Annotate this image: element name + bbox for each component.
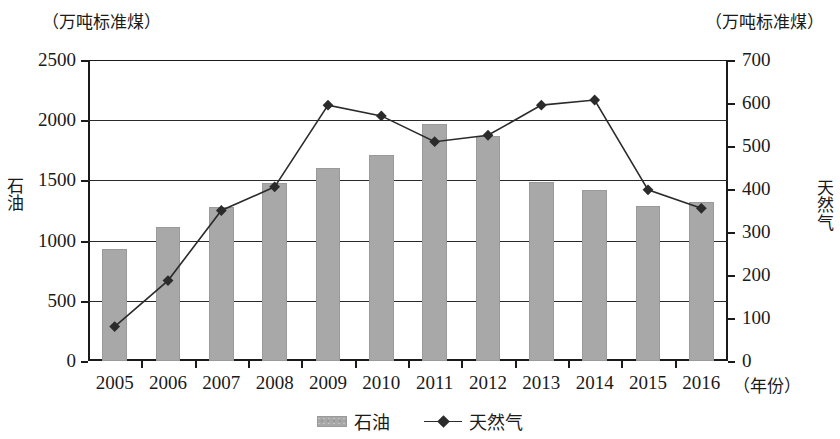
x-axis-title: （年份） <box>733 372 801 397</box>
right-axis-tick <box>728 361 735 363</box>
x-axis-tick <box>461 361 463 368</box>
right-axis-tick <box>728 275 735 277</box>
right-axis-tick <box>728 146 735 148</box>
right-axis-tick-label: 200 <box>742 264 771 286</box>
right-axis-tick <box>728 60 735 62</box>
legend-item-oil[interactable]: 石油 <box>317 408 390 434</box>
right-axis-tick-label: 300 <box>742 221 771 243</box>
x-axis-label-2009: 2009 <box>309 372 347 394</box>
right-axis-tick <box>728 318 735 320</box>
left-axis-tick <box>81 120 88 122</box>
left-axis-tick-label: 0 <box>67 350 77 372</box>
x-axis-tick <box>568 361 570 368</box>
x-axis-tick <box>355 361 357 368</box>
diamond-marker-icon <box>437 415 450 428</box>
x-axis-label-2012: 2012 <box>469 372 507 394</box>
data-point-2012: 天然气 2012: 525 <box>483 130 494 141</box>
left-axis-tick-label: 1500 <box>38 169 76 191</box>
right-axis-tick <box>728 103 735 105</box>
x-axis-tick <box>195 361 197 368</box>
right-axis-tick <box>728 189 735 191</box>
legend-label-oil: 石油 <box>354 408 390 434</box>
x-axis-label-2011: 2011 <box>416 372 453 394</box>
x-axis-tick <box>621 361 623 368</box>
data-point-2015: 天然气 2015: 398 <box>643 184 654 195</box>
x-axis-label-2013: 2013 <box>522 372 560 394</box>
x-axis-tick <box>301 361 303 368</box>
data-point-2013: 天然气 2013: 595 <box>536 100 547 111</box>
left-axis-tick <box>81 301 88 303</box>
x-axis-label-2006: 2006 <box>149 372 187 394</box>
left-axis-tick <box>81 241 88 243</box>
chart-legend: 石油 天然气 <box>0 408 840 434</box>
data-point-2011: 天然气 2011: 510 <box>429 136 440 147</box>
legend-label-natural-gas: 天然气 <box>469 408 523 434</box>
right-axis-unit-label: （万吨标准煤） <box>705 8 824 33</box>
line-series-group: 天然气 2005: 80天然气 2006: 187天然气 2007: 350天然… <box>88 60 728 361</box>
x-axis-label-2016: 2016 <box>682 372 720 394</box>
data-point-2010: 天然气 2010: 570 <box>376 111 387 122</box>
right-axis-tick-label: 600 <box>742 92 771 114</box>
x-axis-label-2008: 2008 <box>256 372 294 394</box>
left-axis-tick-label: 500 <box>48 290 77 312</box>
right-axis-tick-label: 0 <box>742 350 752 372</box>
data-point-2009: 天然气 2009: 595 <box>323 100 334 111</box>
data-point-2014: 天然气 2014: 607 <box>589 95 600 106</box>
left-axis-tick <box>81 180 88 182</box>
data-point-2008: 天然气 2008: 405 <box>269 181 280 192</box>
x-axis-label-2014: 2014 <box>576 372 614 394</box>
bar-swatch-icon <box>317 416 347 427</box>
left-axis-tick-label: 2000 <box>38 109 76 131</box>
x-axis-tick <box>408 361 410 368</box>
line-path-natural-gas <box>115 100 702 327</box>
plot-area: 05001000150020002500 0100200300400500600… <box>88 60 728 361</box>
x-axis-tick <box>675 361 677 368</box>
left-axis-unit-label: （万吨标准煤） <box>42 8 161 33</box>
x-axis-tick <box>248 361 250 368</box>
right-axis-tick-label: 100 <box>742 307 771 329</box>
left-axis-tick-label: 2500 <box>38 49 76 71</box>
x-axis-labels-group: 2005200620072008200920102011201220132014… <box>88 372 728 398</box>
line-diamond-swatch-icon <box>424 415 462 427</box>
right-axis-tick-label: 500 <box>742 135 771 157</box>
x-axis-tick <box>141 361 143 368</box>
x-axis-label-2010: 2010 <box>362 372 400 394</box>
x-axis-label-2015: 2015 <box>629 372 667 394</box>
right-axis-tick-label: 400 <box>742 178 771 200</box>
x-axis-label-2005: 2005 <box>96 372 134 394</box>
right-axis-series-name: 天然气 <box>814 180 836 232</box>
x-axis-label-2007: 2007 <box>202 372 240 394</box>
left-axis-tick <box>81 60 88 62</box>
x-axis-tick <box>515 361 517 368</box>
data-point-2016: 天然气 2016: 355 <box>696 203 707 214</box>
right-axis-tick <box>728 232 735 234</box>
left-axis-tick-label: 1000 <box>38 230 76 252</box>
chart-canvas: （万吨标准煤） （万吨标准煤） 石油 天然气 05001000150020002… <box>0 0 840 439</box>
left-axis-series-name: 石油 <box>4 178 26 213</box>
legend-item-natural-gas[interactable]: 天然气 <box>424 408 523 434</box>
left-axis-tick <box>81 361 88 363</box>
right-axis-tick-label: 700 <box>742 49 771 71</box>
